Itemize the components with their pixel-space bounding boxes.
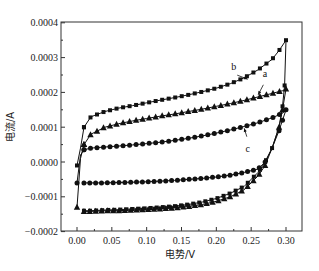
annotation-b: b [231, 61, 236, 72]
y-tick-label: −0.0002 [25, 226, 58, 237]
series-a [74, 85, 289, 213]
x-tick-label: 0.20 [208, 235, 226, 246]
annotation-c: c [245, 143, 250, 154]
x-axis-title: 电势/V [165, 248, 195, 260]
y-tick-label: 0.0001 [31, 122, 59, 133]
y-tick-label: 0.0002 [31, 87, 59, 98]
axis-ticks: 0.000.050.100.150.200.250.30−0.0002−0.00… [25, 17, 295, 246]
x-tick-label: 0.00 [68, 235, 86, 246]
y-axis-title: 电流/A [4, 112, 16, 142]
series-b [75, 38, 288, 213]
x-tick-label: 0.25 [242, 235, 260, 246]
y-tick-label: −0.0001 [25, 191, 58, 202]
x-tick-label: 0.15 [173, 235, 191, 246]
x-tick-label: 0.10 [138, 235, 156, 246]
annotation-a: a [263, 68, 268, 79]
x-tick-label: 0.05 [103, 235, 121, 246]
cv-chart: 0.000.050.100.150.200.250.30−0.0002−0.00… [0, 0, 319, 271]
y-tick-label: 0.0004 [31, 17, 59, 28]
y-tick-label: 0.0003 [31, 52, 59, 63]
plot-frame [61, 22, 302, 231]
plot-border [61, 22, 302, 231]
plot-curves [74, 38, 289, 214]
y-tick-label: 0.0000 [31, 157, 59, 168]
x-tick-label: 0.30 [277, 235, 295, 246]
